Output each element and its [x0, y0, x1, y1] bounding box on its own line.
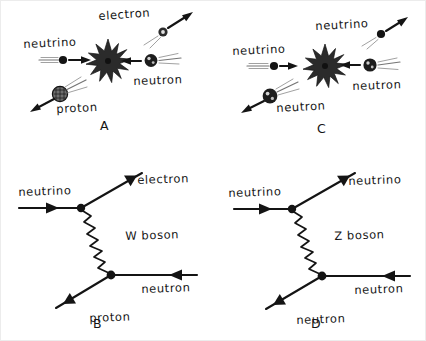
neutrino-particle-a — [39, 56, 91, 64]
label-neutrino-out-c: neutrino — [315, 16, 369, 33]
label-proton-a: proton — [56, 100, 98, 116]
label-neutron-in-d: neutron — [354, 281, 404, 297]
collision-starburst-c — [303, 44, 348, 88]
leg-neutron-in-d — [322, 270, 410, 281]
w-boson-zigzag — [83, 211, 109, 273]
panel-a: neutrino electron neutron proton A — [1, 1, 214, 151]
electron-particle-a — [144, 12, 193, 48]
label-z-boson-d: Z boson — [334, 227, 385, 243]
panel-letter-a: A — [100, 118, 110, 133]
label-neutrino-a: neutrino — [23, 35, 77, 51]
panel-letter-d: D — [311, 316, 322, 331]
label-neutron-a: neutron — [133, 72, 183, 88]
label-neutron-in-c: neutron — [352, 77, 402, 93]
leg-neutrino-in-d — [234, 203, 292, 214]
panel-letter-b: B — [93, 316, 103, 331]
neutron-particle-a — [121, 54, 181, 67]
label-neutron-b: neutron — [141, 280, 191, 296]
label-neutrino-in-c: neutrino — [232, 42, 286, 58]
leg-neutron-out-d — [266, 276, 322, 309]
figure-frame: neutrino electron neutron proton A — [0, 0, 426, 341]
label-w-boson-b: W boson — [125, 227, 179, 243]
label-neutrino-b: neutrino — [18, 183, 72, 199]
panel-b: neutrino electron W boson neutron proton… — [1, 161, 214, 341]
neutrino-in-particle-c — [247, 62, 298, 70]
panel-c: neutrino neutrino neutron neutron C — [214, 1, 426, 151]
panel-letter-c: C — [317, 121, 327, 136]
label-neutron-out-c: neutron — [276, 98, 326, 115]
leg-proton-out-b — [56, 275, 111, 308]
label-electron-b: electron — [137, 171, 189, 187]
label-neutrino-out-d: neutrino — [348, 172, 402, 188]
label-neutrino-in-d: neutrino — [228, 184, 282, 200]
leg-neutrino-in-b — [19, 202, 81, 213]
leg-electron-out-b — [81, 173, 142, 208]
neutrino-out-particle-c — [362, 17, 408, 49]
leg-neutron-in-b — [111, 269, 197, 280]
panel-d: neutrino neutrino Z boson neutron neutro… — [214, 161, 426, 341]
leg-neutrino-out-d — [292, 173, 355, 209]
z-boson-zigzag — [294, 212, 320, 274]
neutron-in-particle-c — [340, 58, 400, 72]
